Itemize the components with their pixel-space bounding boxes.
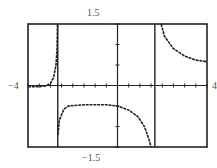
graph-plot: [0, 0, 217, 168]
curve-branch: [161, 24, 207, 62]
curve-branch: [58, 105, 151, 147]
curve-branch: [28, 24, 58, 87]
